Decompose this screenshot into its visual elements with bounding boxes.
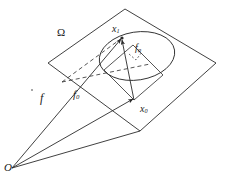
dashed-radius-line (62, 64, 150, 82)
label-fphi-sub: φ (138, 46, 141, 53)
label-point-x0: x0 (140, 104, 148, 114)
point-x1-marker (120, 36, 123, 39)
label-point-x1: x1 (112, 24, 120, 34)
label-vector-f: f (40, 92, 43, 104)
right-angle-marker-top (104, 45, 163, 75)
label-vector-f0: f0 (73, 89, 79, 101)
vector-f (12, 39, 121, 168)
label-x1-sub: 1 (116, 27, 119, 34)
label-plane-omega: Ω (57, 27, 65, 38)
label-x0-sub: 0 (144, 107, 147, 114)
ray-to-plane-corner (12, 131, 140, 168)
circle-on-plane (96, 26, 179, 85)
vector-f0 (12, 99, 133, 168)
label-origin: O (4, 162, 12, 173)
plane-omega-polygon (48, 9, 216, 131)
label-vector-f-phi: fφ (135, 43, 141, 53)
figure-canvas: Ω x1 fφ f f0 x0 O (0, 0, 239, 179)
label-f0-sub: 0 (76, 93, 79, 100)
stray-speck (31, 89, 33, 91)
dashed-chord-line (62, 38, 122, 82)
